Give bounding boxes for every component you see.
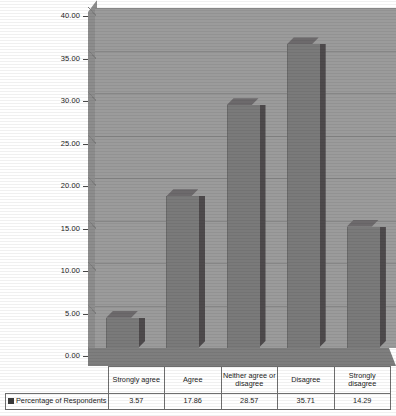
- y-axis-label: 20.00: [14, 182, 80, 190]
- y-axis-tick: [83, 271, 88, 272]
- table-corner-cell: [6, 367, 109, 394]
- table-header-cell-4: Strongly disagree: [334, 367, 391, 394]
- y-axis-tick: [83, 16, 88, 17]
- table-value-cell-4: 14.29: [334, 394, 391, 410]
- y-axis-tick: [83, 229, 88, 230]
- table-value-cell-2: 28.57: [221, 394, 278, 410]
- bar-side-face: [198, 196, 205, 348]
- y-axis-label: 30.00: [14, 97, 80, 105]
- data-table: Strongly agree Agree Neither agree or di…: [5, 366, 391, 410]
- y-axis-tick: [83, 314, 88, 315]
- y-axis-tick: [83, 144, 88, 145]
- table-header-cell-0: Strongly agree: [108, 367, 165, 394]
- y-axis-tick: [83, 186, 88, 187]
- gridline-connector: [88, 135, 96, 144]
- gridline: [95, 8, 396, 9]
- bar-front-face: [347, 227, 380, 348]
- plot-floor: [88, 348, 396, 366]
- gridline-connector: [88, 305, 96, 314]
- table-value-cell-0: 3.57: [108, 394, 165, 410]
- bar-front-face: [227, 105, 260, 348]
- bar-front-face: [106, 318, 139, 348]
- bar-1: [166, 196, 198, 348]
- gridline-connector: [88, 50, 96, 59]
- bar-front-face: [166, 196, 199, 348]
- plot-area: [95, 0, 396, 366]
- bar-4: [347, 227, 379, 348]
- table-header-cell-3: Disagree: [278, 367, 335, 394]
- table-header-cell-2: Neither agree or disagree: [221, 367, 278, 394]
- y-axis-tick: [83, 101, 88, 102]
- y-axis-label: 15.00: [14, 225, 80, 233]
- bar-side-face: [319, 44, 326, 348]
- bar-side-face: [379, 227, 386, 348]
- y-axis-label: 25.00: [14, 140, 80, 148]
- table-value-cell-1: 17.86: [165, 394, 222, 410]
- bar-3: [287, 44, 319, 348]
- y-axis-label: 10.00: [14, 267, 80, 275]
- gridline-connector: [88, 220, 96, 229]
- table-value-row: Percentage of Respondents 3.57 17.86 28.…: [6, 394, 391, 410]
- bar-side-face: [259, 105, 266, 348]
- y-axis-label: 35.00: [14, 55, 80, 63]
- gridline: [95, 93, 396, 94]
- gridline-connector: [88, 92, 96, 101]
- chart-page: 0.005.0010.0015.0020.0025.0030.0035.0040…: [0, 0, 396, 416]
- table-header-row: Strongly agree Agree Neither agree or di…: [6, 367, 391, 394]
- y-axis-label: 0.00: [14, 352, 80, 360]
- y-axis-tick: [83, 356, 88, 357]
- gridline-connector: [88, 262, 96, 271]
- gridline-connector: [88, 7, 96, 16]
- bar-front-face: [287, 44, 320, 348]
- y-axis-label: 5.00: [14, 310, 80, 318]
- bar-0: [106, 318, 138, 348]
- table-value-cell-3: 35.71: [278, 394, 335, 410]
- y-axis-tick: [83, 59, 88, 60]
- bar-2: [227, 105, 259, 348]
- y-axis-label: 40.00: [14, 12, 80, 20]
- square-swatch-icon: [8, 398, 14, 404]
- table-header-cell-1: Agree: [165, 367, 222, 394]
- legend-entry: Percentage of Respondents: [6, 394, 109, 410]
- gridline: [95, 51, 396, 52]
- legend-label: Percentage of Respondents: [16, 396, 106, 405]
- gridline-connector: [88, 177, 96, 186]
